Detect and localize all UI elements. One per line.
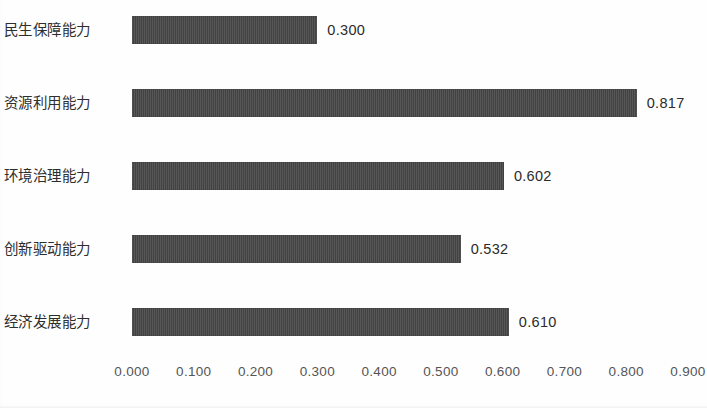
bar-fill [132, 89, 637, 117]
x-tick-label: 0.400 [361, 364, 396, 379]
category-label: 创新驱动能力 [4, 242, 124, 257]
category-label: 民生保障能力 [4, 23, 124, 38]
bar-value-label: 0.300 [327, 16, 365, 44]
bar-track [132, 16, 317, 44]
bar-value-label: 0.610 [519, 308, 557, 336]
x-tick-label: 0.000 [114, 364, 149, 379]
x-tick-label: 0.200 [238, 364, 273, 379]
bar-value-label: 0.817 [647, 89, 685, 117]
bar-track [132, 162, 504, 190]
bar-row: 环境治理能力 0.602 [0, 146, 707, 206]
bar-fill [132, 16, 317, 44]
bar-row: 资源利用能力 0.817 [0, 73, 707, 133]
bar-row: 创新驱动能力 0.532 [0, 219, 707, 279]
bar-track [132, 89, 637, 117]
bar-chart: 民生保障能力 0.300 资源利用能力 0.817 环境治理能力 0.602 创… [0, 0, 707, 408]
bar-fill [132, 235, 461, 263]
bar-track [132, 308, 509, 336]
x-tick-label: 0.900 [670, 364, 705, 379]
x-tick-label: 0.300 [300, 364, 335, 379]
x-tick-label: 0.700 [547, 364, 582, 379]
plot-area: 民生保障能力 0.300 资源利用能力 0.817 环境治理能力 0.602 创… [0, 0, 707, 355]
bar-fill [132, 162, 504, 190]
bar-value-label: 0.532 [471, 235, 509, 263]
category-label: 环境治理能力 [4, 169, 124, 184]
bar-value-label: 0.602 [514, 162, 552, 190]
bar-track [132, 235, 461, 263]
bar-row: 经济发展能力 0.610 [0, 292, 707, 352]
category-label: 经济发展能力 [4, 315, 124, 330]
category-label: 资源利用能力 [4, 96, 124, 111]
bar-row: 民生保障能力 0.300 [0, 0, 707, 60]
x-axis: 0.0000.1000.2000.3000.4000.5000.6000.700… [0, 355, 707, 395]
x-tick-label: 0.800 [609, 364, 644, 379]
bar-fill [132, 308, 509, 336]
x-tick-label: 0.500 [423, 364, 458, 379]
x-tick-label: 0.100 [176, 364, 211, 379]
x-tick-label: 0.600 [485, 364, 520, 379]
